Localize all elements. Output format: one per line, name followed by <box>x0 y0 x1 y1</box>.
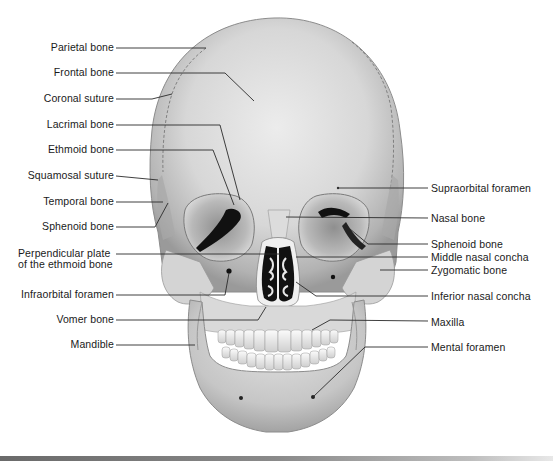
label-nasal-bone: Nasal bone <box>431 212 485 224</box>
bottom-divider-bar <box>0 456 553 461</box>
label-middle-nasal-concha: Middle nasal concha <box>431 251 529 263</box>
label-supraorbital-foramen: Supraorbital foramen <box>431 182 531 194</box>
label-perpendicular-plate: Perpendicular plate of the ethmoid bone <box>18 248 113 270</box>
label-maxilla: Maxilla <box>431 316 464 328</box>
upper-teeth <box>218 330 338 352</box>
label-infraorbital-foramen: Infraorbital foramen <box>21 288 114 300</box>
label-parietal-bone: Parietal bone <box>51 41 114 53</box>
label-mandible: Mandible <box>71 338 114 350</box>
label-frontal-bone: Frontal bone <box>54 66 114 78</box>
label-lacrimal-bone: Lacrimal bone <box>47 118 114 130</box>
skull-diagram: Parietal bone Frontal bone Coronal sutur… <box>0 0 553 461</box>
label-ethmoid-bone: Ethmoid bone <box>48 143 114 155</box>
label-vomer-bone: Vomer bone <box>56 313 114 325</box>
label-sphenoid-bone-left: Sphenoid bone <box>42 220 114 232</box>
label-sphenoid-bone-right: Sphenoid bone <box>431 238 503 250</box>
label-temporal-bone: Temporal bone <box>43 195 114 207</box>
teeth <box>218 330 338 370</box>
label-mental-foramen: Mental foramen <box>431 341 505 353</box>
label-squamosal-suture: Squamosal suture <box>28 169 114 181</box>
label-coronal-suture: Coronal suture <box>44 92 114 104</box>
label-zygomatic-bone: Zygomatic bone <box>431 264 507 276</box>
label-inferior-nasal-concha: Inferior nasal concha <box>431 290 531 302</box>
label-perpendicular-plate-line2: of the ethmoid bone <box>18 259 113 270</box>
